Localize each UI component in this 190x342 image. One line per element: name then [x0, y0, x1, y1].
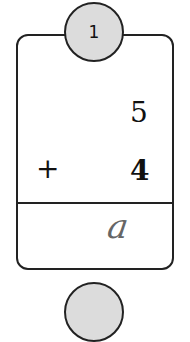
- problem-number: 1: [89, 22, 100, 42]
- next-problem-number-badge: [64, 282, 124, 342]
- answer-divider-line: [16, 202, 174, 204]
- first-addend: 5: [130, 96, 148, 129]
- problem-number-badge: 1: [64, 2, 124, 62]
- plus-operator: +: [36, 152, 59, 185]
- second-addend: 4: [130, 154, 149, 187]
